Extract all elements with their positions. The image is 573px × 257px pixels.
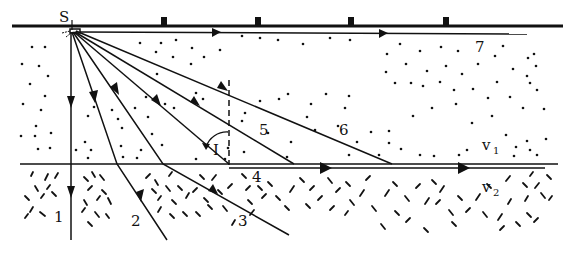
geophone-icon (443, 17, 449, 26)
velocity-sub-v2: 2 (493, 187, 499, 198)
ray-label-5: 5 (259, 121, 269, 139)
geophone-icon (161, 17, 167, 26)
ray-label-4: 4 (252, 168, 262, 186)
ray-6 (76, 31, 392, 164)
ray-label-6: 6 (339, 121, 349, 139)
ray-label-7: 7 (475, 38, 485, 56)
geophone-icon (348, 17, 354, 26)
lower-layer-texture (25, 172, 552, 232)
ray-label-2: 2 (131, 212, 141, 230)
ray-label-1: 1 (54, 208, 64, 226)
velocity-label-v1: v (481, 136, 491, 154)
angle-label: I (213, 141, 219, 159)
geophone-icon (255, 17, 261, 26)
velocity-sub-v1: 1 (493, 145, 499, 156)
ray-3 (73, 32, 289, 235)
velocity-label-v2: v (481, 178, 491, 196)
ray-5 (75, 32, 294, 164)
seismic-ray-diagram: S 7 1 2 3 4 5 6 I v 1 v 2 (0, 0, 573, 257)
source-label: S (59, 8, 69, 26)
ray-7-direct (80, 32, 527, 34)
ray-label-3: 3 (238, 212, 248, 230)
